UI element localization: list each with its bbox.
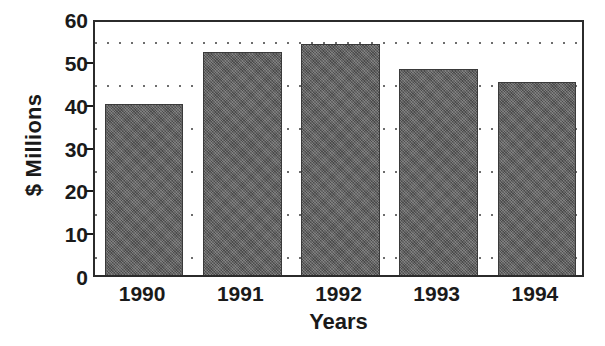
bar [399,69,478,275]
bars-group [95,22,582,275]
x-tick-label: 1990 [119,281,166,307]
y-tick-label: 30 [44,138,88,159]
y-tick-label: 40 [44,95,88,116]
plot-area [93,20,584,277]
x-axis-title: Years [93,309,584,335]
y-tick-label: 60 [44,10,88,31]
y-tick-label: 0 [44,267,88,288]
x-tick-label: 1993 [413,281,460,307]
y-tick-label: 10 [44,224,88,245]
bar [203,52,282,275]
x-tick-label: 1991 [217,281,264,307]
x-tick-label: 1992 [315,281,362,307]
bar [498,82,577,275]
bar [301,44,380,275]
y-tick-label: 50 [44,52,88,73]
bar [105,104,184,275]
y-tick-label: 20 [44,181,88,202]
y-axis-tick-labels: 0102030405060 [44,20,88,277]
x-tick-label: 1994 [512,281,559,307]
bar-chart: $ Millions 0102030405060 199019911992199… [0,0,605,346]
